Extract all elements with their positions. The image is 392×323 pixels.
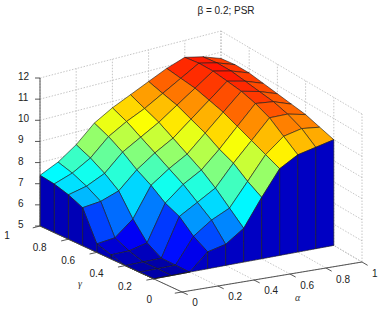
- z-tick-label: 7: [18, 177, 24, 188]
- z-tick-label: 12: [18, 71, 29, 82]
- z-tick-label: 5: [18, 219, 24, 230]
- surface-mesh: [40, 57, 334, 279]
- x-tick-label: 0.6: [300, 280, 314, 291]
- x-tick-label: 0.8: [336, 274, 350, 285]
- x-tick-label: 0: [192, 297, 198, 308]
- z-tick-label: 6: [18, 198, 24, 209]
- y-tick-label: 0.6: [61, 255, 75, 266]
- chart-title: β = 0.2; PSR: [30, 5, 392, 16]
- x-tick-label: 1: [372, 268, 378, 279]
- x-tick-label: 0.2: [228, 291, 242, 302]
- y-tick-label: 0.8: [33, 242, 47, 253]
- y-tick-label: 1: [4, 230, 10, 241]
- y-axis-label: γ: [78, 278, 82, 289]
- x-axis-label: α: [295, 292, 300, 303]
- z-tick-label: 11: [18, 92, 28, 103]
- y-tick-label: 0.2: [118, 281, 132, 292]
- z-tick-label: 9: [18, 134, 24, 145]
- y-tick-label: 0.4: [90, 268, 104, 279]
- z-tick-label: 8: [18, 156, 24, 167]
- surface-plot: [0, 0, 392, 323]
- y-tick-label: 0: [146, 294, 152, 305]
- x-tick-label: 0.4: [264, 285, 278, 296]
- z-tick-label: 10: [18, 113, 29, 124]
